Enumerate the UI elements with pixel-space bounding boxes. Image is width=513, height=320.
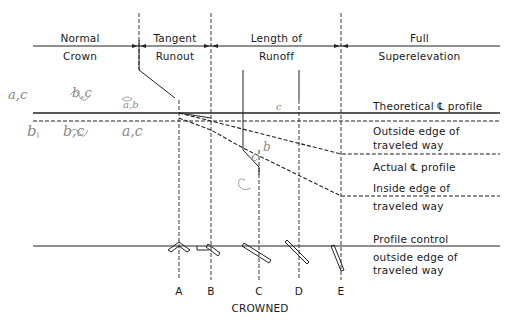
label-outside-edge-2: traveled way — [373, 139, 444, 151]
section-label-a: A — [171, 285, 187, 297]
section-label-e: E — [333, 285, 349, 297]
header-crown: Crown — [40, 50, 120, 62]
section-label-d: D — [291, 285, 307, 297]
cross-section-e — [331, 245, 344, 271]
handwritten-note: a,c — [122, 124, 143, 138]
label-theoretical-cl: Theoretical ℄ profile — [373, 100, 482, 112]
cross-section-d — [285, 240, 309, 264]
header-runout: Runout — [140, 50, 210, 62]
header-length-of: Length of — [212, 32, 341, 44]
handwritten-note: c — [276, 100, 282, 114]
label-inside-edge-1: Inside edge of — [373, 182, 450, 194]
header-normal: Normal — [40, 32, 120, 44]
label-outside-edge-1: Outside edge of — [373, 125, 460, 137]
section-label-c: C — [251, 285, 267, 297]
handwritten-note: b — [263, 140, 271, 154]
header-superelevation: Superelevation — [342, 50, 497, 62]
leader-line-a — [139, 40, 175, 98]
label-profile-control: Profile control — [373, 233, 448, 245]
header-runoff: Runoff — [212, 50, 341, 62]
handwritten-note: a,b — [123, 98, 139, 112]
label-actual-cl: Actual ℄ profile — [373, 161, 456, 173]
crowned-caption: CROWNED — [220, 302, 300, 314]
handwriting-scribbles — [38, 91, 251, 189]
label-inside-edge-2: traveled way — [373, 200, 444, 212]
handwritten-note: b,c — [63, 124, 84, 138]
handwritten-note: b — [27, 124, 37, 138]
cross-sections — [168, 240, 344, 271]
header-tangent: Tangent — [140, 32, 210, 44]
label-control-edge-2: traveled way — [373, 264, 444, 276]
handwritten-note: c — [251, 150, 258, 164]
handwritten-note: a,c — [8, 88, 27, 102]
section-label-b: B — [203, 285, 219, 297]
handwritten-note: b,c — [72, 86, 92, 100]
header-full: Full — [342, 32, 497, 44]
label-control-edge-1: outside edge of — [373, 251, 458, 263]
